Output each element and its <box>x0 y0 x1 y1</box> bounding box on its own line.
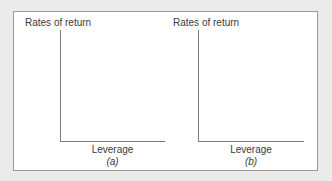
y-axis-label-a: Rates of return <box>25 17 91 29</box>
panel-letter-a: (a) <box>60 156 165 168</box>
chart-panel-b: Rates of return Leverage (b) <box>166 12 318 170</box>
x-axis-label-a: Leverage <box>60 143 165 156</box>
figure-frame: Rates of return Leverage (a) Rates of re… <box>13 11 318 171</box>
x-axis-line-b <box>198 141 304 142</box>
y-axis-label-b: Rates of return <box>173 17 239 29</box>
y-axis-line-b <box>198 30 199 142</box>
x-axis-label-b: Leverage <box>198 143 304 156</box>
axes-a <box>60 30 165 142</box>
figure-root: Rates of return Leverage (a) Rates of re… <box>0 0 332 181</box>
y-axis-line-a <box>60 30 61 142</box>
chart-panel-a: Rates of return Leverage (a) <box>14 12 166 170</box>
x-axis-line-a <box>60 141 165 142</box>
x-axis-label-group-a: Leverage (a) <box>60 143 165 168</box>
panel-letter-b: (b) <box>198 156 304 168</box>
x-axis-label-group-b: Leverage (b) <box>198 143 304 168</box>
axes-b <box>198 30 304 142</box>
